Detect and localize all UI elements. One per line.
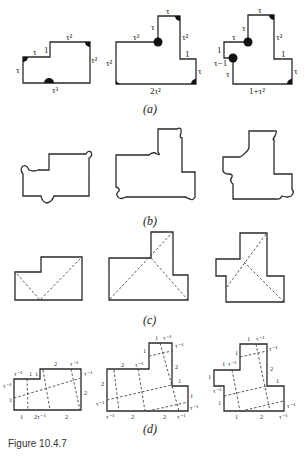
edge-label: 2	[101, 380, 104, 387]
edge-label: τ⁻¹	[213, 387, 222, 394]
edge-label: 1	[9, 396, 12, 403]
figure-10-4-7: τ τ 1 τ² τ² τ³ τ² τ² τ τ τ² 1 τ 2τ²	[0, 0, 305, 456]
edge-label: τ⁻¹	[175, 342, 184, 349]
edge-label: 1	[281, 49, 286, 59]
edge-label: τ³	[52, 85, 59, 95]
edge-label: τ	[232, 32, 236, 42]
edge-label: 1	[190, 392, 193, 399]
edge-label: 1	[29, 370, 32, 377]
tile-c3	[216, 233, 284, 302]
edge-label: τ⁻¹	[190, 404, 199, 411]
edge-label: τ⁻¹	[228, 360, 237, 367]
edge-label: τ	[16, 65, 20, 75]
panel-label-c: (c)	[143, 313, 156, 327]
edge-label: 2	[131, 413, 134, 420]
edge-label: τ⁻¹	[84, 370, 93, 377]
edge-label: τ⁻¹	[3, 382, 12, 389]
edge-label: 2	[175, 363, 178, 370]
edge-label: τ	[151, 22, 155, 32]
edge-label: 1	[217, 45, 222, 55]
edge-label: τ	[166, 6, 170, 16]
tile-a2: τ² τ² τ τ τ² 1 τ 2τ²	[106, 6, 202, 96]
edge-label: 2τ⁻¹	[34, 413, 46, 420]
edge-label: 1	[44, 45, 49, 55]
edge-label: 1	[185, 49, 190, 59]
edge-label: τ²	[91, 55, 98, 65]
panel-label-b: (b)	[143, 214, 157, 228]
edge-label: τ²	[182, 32, 189, 42]
edge-label: τ	[242, 23, 246, 33]
panel-label-a: (a)	[143, 102, 157, 116]
panel-a: τ τ 1 τ² τ² τ³ τ² τ² τ τ τ² 1 τ 2τ²	[16, 5, 298, 116]
edge-label: τ	[294, 66, 298, 76]
edge-label: 2	[54, 360, 57, 367]
tile-d2: 1 τ⁻¹ τ⁻¹ 1 2 τ⁻¹ 2 1 2 τ⁻¹ 1 τ⁻¹ τ⁻¹ 2 …	[96, 334, 199, 420]
edge-label: 1	[218, 399, 221, 406]
edge-label: τ⁻¹	[14, 370, 23, 377]
edge-label: τ⁻¹	[96, 400, 105, 407]
tile-b2	[116, 128, 195, 200]
tile-a1: τ τ 1 τ² τ² τ³	[16, 32, 98, 95]
edge-label: τ⁻¹	[177, 413, 186, 420]
tile-d1: 2 τ⁻¹ τ⁻¹ τ⁻¹ 1 1 τ⁻¹ 1 2 1 2τ⁻¹ 2	[3, 360, 93, 420]
edge-label: 1	[235, 349, 238, 356]
edge-label: 1+τ²	[249, 86, 265, 96]
edge-label: τ⁻¹	[106, 413, 115, 420]
edge-label: 2	[163, 413, 166, 420]
edge-label: τ−1	[214, 58, 227, 68]
figure-caption: Figure 10.4.7	[8, 438, 67, 449]
edge-label: 1	[20, 413, 23, 420]
edge-label: 2	[84, 389, 87, 396]
edge-label: τ²	[66, 32, 73, 42]
edge-label: 1	[143, 347, 146, 354]
edge-label: τ⁻¹	[287, 402, 296, 409]
edge-label: τ⁻¹	[70, 360, 79, 367]
edge-label: τ⁻¹	[163, 334, 172, 341]
edge-label: 1	[178, 377, 181, 384]
edge-label: 1	[155, 334, 158, 341]
tile-b1	[21, 151, 91, 203]
edge-label: 2τ²	[150, 86, 161, 96]
edge-label: 2	[270, 365, 273, 372]
edge-label: τ²	[276, 32, 283, 42]
panel-label-d: (d)	[143, 422, 157, 436]
tile-c1	[15, 257, 82, 300]
edge-label: τ²	[133, 32, 140, 42]
edge-label: 2	[121, 361, 124, 368]
edge-label: τ	[258, 5, 262, 15]
tile-d3: 1 τ⁻¹ τ⁻¹ 1 1 τ⁻¹ 2 1 τ⁻¹ 1 1 τ⁻¹ 1 2 τ⁻…	[208, 335, 296, 420]
edge-label: τ⁻¹	[279, 413, 288, 420]
tile-c2	[109, 232, 188, 300]
tile-b3	[223, 131, 293, 200]
panel-d: 2 τ⁻¹ τ⁻¹ τ⁻¹ 1 1 τ⁻¹ 1 2 1 2τ⁻¹ 2 1 τ⁻¹…	[3, 334, 296, 436]
edge-label: 2	[260, 413, 263, 420]
edge-label: τ	[226, 69, 230, 79]
tile-a3: 1 τ τ τ τ² 1 τ 1+τ² τ τ−1	[214, 5, 298, 96]
edge-label: τ⁻¹	[256, 335, 265, 342]
edge-label: τ⁻¹	[135, 361, 144, 368]
edge-label: 1	[35, 370, 38, 377]
edge-label: τ	[198, 66, 202, 76]
edge-label: 1	[247, 335, 250, 342]
edge-label: 1	[235, 413, 238, 420]
edge-label: 1	[222, 360, 225, 367]
edge-label: 1	[276, 377, 279, 384]
edge-label: 1	[208, 373, 211, 380]
edge-label: τ	[33, 47, 37, 57]
panel-b: (b)	[21, 128, 293, 228]
edge-label: τ⁻¹	[269, 345, 278, 352]
edge-label: 2	[65, 413, 68, 420]
edge-label: τ²	[106, 58, 113, 68]
panel-c: (c)	[15, 232, 284, 327]
